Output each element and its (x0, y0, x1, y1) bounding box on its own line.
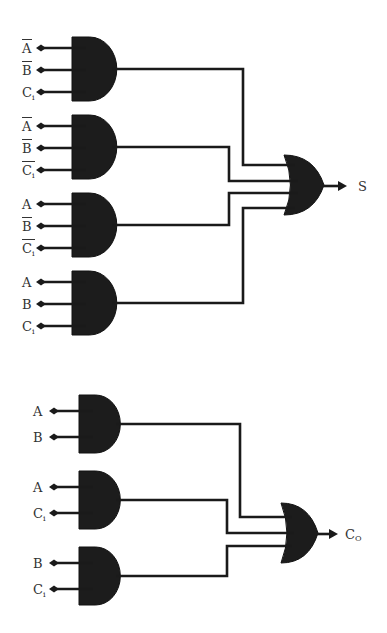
sum-output-label: S (358, 179, 367, 194)
input-arrow-icon (36, 123, 46, 130)
input-label-name: C (33, 506, 43, 521)
input-label-name: C (22, 319, 32, 334)
input-label-text: Ci (22, 241, 35, 258)
carry-output-label: CO (345, 527, 362, 543)
sum-gate-4-input-2-label: B (22, 297, 32, 312)
input-arrow-icon (36, 145, 46, 152)
input-label-subscript: i (32, 93, 35, 102)
carry-and-gate-2 (79, 471, 120, 529)
input-label-text: Ci (33, 506, 46, 523)
input-label-subscript: i (32, 327, 35, 336)
input-label-name: A (21, 41, 32, 56)
input-label-text: B (22, 219, 32, 234)
input-label-text: A (32, 404, 43, 419)
carry-wire-1 (116, 424, 292, 517)
carry-gate-1-input-2-label: B (33, 430, 43, 445)
input-arrow-icon (36, 223, 46, 230)
input-label-subscript: i (32, 249, 35, 258)
input-label-text: A (21, 41, 32, 56)
input-label-text: Ci (22, 319, 35, 336)
sum-gate-4-input-1-label: A (21, 275, 32, 290)
carry-gate-1-input-1-label: A (32, 404, 43, 419)
sum-gate-1-input-3-label: Ci (22, 85, 35, 102)
sum-gate-3-input-1-label: A (21, 197, 32, 212)
input-label-text: B (22, 297, 32, 312)
input-arrow-icon (36, 201, 46, 208)
input-label-name: A (32, 404, 43, 419)
sum-gate-2-input-3-label: Ci (22, 162, 35, 180)
input-label-name: C (33, 582, 43, 597)
input-label-subscript: i (32, 171, 35, 180)
input-label-name: B (33, 556, 43, 571)
input-arrow-icon (49, 510, 59, 517)
output-arrow-icon (329, 529, 338, 539)
input-arrow-icon (49, 586, 59, 593)
carry-gate-2-input-2-label: Ci (33, 506, 46, 523)
input-label-name: C (22, 241, 32, 256)
sum-gate-4-input-3-label: Ci (22, 319, 35, 336)
sum-gate-1-input-2-label: B (22, 62, 32, 78)
carry-output-subscript: O (355, 534, 362, 543)
sum-gate-2-input-2-label: B (22, 140, 32, 156)
input-label-text: Ci (33, 582, 46, 599)
input-label-name: B (22, 141, 32, 156)
input-label-name: C (22, 85, 32, 100)
input-label-subscript: i (43, 514, 46, 523)
input-arrow-icon (36, 67, 46, 74)
carry-gate-2-input-1-label: A (32, 480, 43, 495)
input-arrow-icon (36, 45, 46, 52)
input-label-text: B (33, 556, 43, 571)
input-label-text: A (21, 119, 32, 134)
sum-gate-3-input-3-label: Ci (22, 240, 35, 258)
input-label-subscript: i (43, 590, 46, 599)
input-label-name: A (21, 275, 32, 290)
output-arrow-icon (338, 181, 347, 191)
carry-and-gate-1 (79, 395, 120, 453)
input-label-text: Ci (22, 163, 35, 180)
sum-gate-3-input-2-label: B (22, 218, 32, 234)
input-arrow-icon (36, 323, 46, 330)
input-arrow-icon (36, 301, 46, 308)
input-arrow-icon (36, 89, 46, 96)
input-arrow-icon (49, 484, 59, 491)
input-label-text: B (33, 430, 43, 445)
sum-gate-2-input-1-label: A (21, 118, 32, 134)
full-adder-diagram: ABCiABCiABCiABCiSABACiBCiCO (0, 0, 387, 633)
input-label-text: A (32, 480, 43, 495)
carry-output-name: C (345, 527, 355, 542)
input-label-name: B (33, 430, 43, 445)
input-arrow-icon (49, 408, 59, 415)
input-label-name: A (21, 197, 32, 212)
input-label-text: A (21, 197, 32, 212)
carry-wire-3 (116, 546, 292, 576)
input-arrow-icon (49, 560, 59, 567)
input-label-name: B (22, 297, 32, 312)
input-arrow-icon (36, 279, 46, 286)
input-label-name: B (22, 63, 32, 78)
input-arrow-icon (49, 434, 59, 441)
input-label-text: A (21, 275, 32, 290)
carry-and-gate-3 (79, 547, 120, 605)
sum-wire-4 (112, 208, 295, 303)
input-label-text: Ci (22, 85, 35, 102)
input-label-text: B (22, 63, 32, 78)
input-label-name: A (32, 480, 43, 495)
input-arrow-icon (36, 245, 46, 252)
sum-gate-1-input-1-label: A (21, 40, 32, 56)
input-label-text: B (22, 141, 32, 156)
input-label-name: C (22, 163, 32, 178)
carry-gate-3-input-2-label: Ci (33, 582, 46, 599)
input-arrow-icon (36, 167, 46, 174)
carry-gate-3-input-1-label: B (33, 556, 43, 571)
input-label-name: B (22, 219, 32, 234)
input-label-name: A (21, 119, 32, 134)
sum-wire-1 (112, 69, 295, 165)
